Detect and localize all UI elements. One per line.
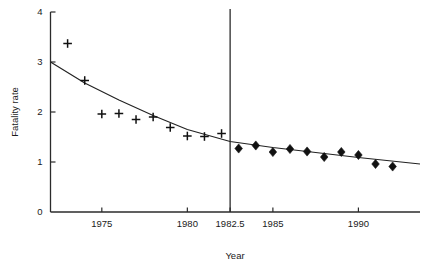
y-tick-label-3: 3 [37, 56, 42, 67]
x-tick-label-3: 1985 [262, 218, 283, 229]
y-tick-label-1: 1 [37, 156, 42, 167]
x-axis-title: Year [225, 250, 244, 261]
x-tick-label-2: 1982.5 [216, 218, 245, 229]
diamond-marker [235, 144, 243, 153]
plus-marker [183, 132, 192, 141]
chart-canvas: 01234 197519801982.519851990 Fatality ra… [0, 0, 426, 266]
x-tick-label-4: 1990 [348, 218, 369, 229]
diamond-marker [252, 141, 260, 150]
axes-group [51, 12, 421, 212]
plus-marker-group [63, 39, 226, 141]
y-axis-title: Fatality rate [9, 87, 20, 137]
y-tick-label-0: 0 [37, 206, 42, 217]
y-tick-label-2: 2 [37, 106, 42, 117]
plus-marker [166, 123, 175, 132]
x-tick-label-0: 1975 [91, 218, 112, 229]
fatality-rate-chart: 01234 197519801982.519851990 Fatality ra… [0, 0, 426, 266]
plus-marker [115, 109, 124, 118]
plus-marker [132, 115, 141, 124]
y-tick-label-4: 4 [37, 6, 42, 17]
diamond-marker [303, 147, 311, 156]
plus-marker [217, 129, 226, 138]
diamond-marker [389, 162, 397, 171]
y-tick-group: 01234 [37, 6, 55, 217]
plus-marker [80, 76, 89, 85]
diamond-marker [286, 144, 294, 153]
plus-marker [98, 110, 107, 119]
diamond-marker-group [235, 141, 397, 171]
diamond-marker [269, 147, 277, 156]
x-tick-label-1: 1980 [177, 218, 198, 229]
plus-marker [63, 39, 72, 48]
diamond-marker [372, 159, 380, 168]
